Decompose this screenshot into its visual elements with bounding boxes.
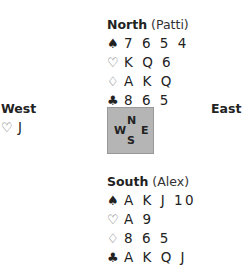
cards: A 9 — [124, 211, 154, 227]
cards: A K Q J — [124, 249, 187, 265]
west-hand: West ♡J — [1, 100, 36, 137]
cards: A K J 10 — [124, 192, 196, 208]
player-name: (Patti) — [151, 17, 189, 32]
diamond-icon: ♢ — [107, 230, 124, 248]
spade-icon: ♠ — [107, 192, 124, 210]
compass-east: E — [141, 124, 149, 137]
heart-holding: ♡J — [1, 118, 36, 137]
north-title: North (Patti) — [107, 16, 189, 34]
player-name: (Alex) — [152, 174, 189, 189]
cards: 8 6 5 — [124, 92, 171, 108]
heart-holding: ♡K Q 6 — [107, 53, 189, 72]
seat-label: North — [107, 17, 147, 32]
diamond-holding: ♢A K Q — [107, 72, 189, 91]
cards: 8 6 5 — [124, 230, 171, 246]
club-holding: ♣A K Q J — [107, 248, 196, 267]
seat-label: East — [211, 101, 241, 116]
east-title: East — [211, 100, 241, 118]
club-icon: ♣ — [107, 249, 124, 267]
seat-label: West — [1, 101, 36, 116]
heart-icon: ♡ — [1, 119, 18, 137]
diamond-holding: ♢8 6 5 — [107, 229, 196, 248]
diamond-icon: ♢ — [107, 73, 124, 91]
south-hand: South (Alex) ♠A K J 10 ♡A 9 ♢8 6 5 ♣A K … — [107, 173, 196, 267]
south-title: South (Alex) — [107, 173, 196, 191]
compass-west: W — [114, 124, 126, 137]
heart-holding: ♡A 9 — [107, 210, 196, 229]
cards: A K Q — [124, 73, 174, 89]
cards: 7 6 5 4 — [124, 35, 189, 51]
north-hand: North (Patti) ♠7 6 5 4 ♡K Q 6 ♢A K Q ♣8 … — [107, 16, 189, 110]
west-title: West — [1, 100, 36, 118]
seat-label: South — [107, 174, 148, 189]
spade-holding: ♠A K J 10 — [107, 191, 196, 210]
spade-holding: ♠7 6 5 4 — [107, 34, 189, 53]
compass-north: N — [127, 114, 136, 127]
cards: K Q 6 — [124, 54, 173, 70]
east-hand: East — [211, 100, 241, 118]
compass-table: N W E S — [107, 107, 154, 154]
heart-icon: ♡ — [107, 54, 124, 72]
cards: J — [18, 119, 24, 135]
heart-icon: ♡ — [107, 211, 124, 229]
spade-icon: ♠ — [107, 35, 124, 53]
compass-south: S — [127, 134, 135, 147]
